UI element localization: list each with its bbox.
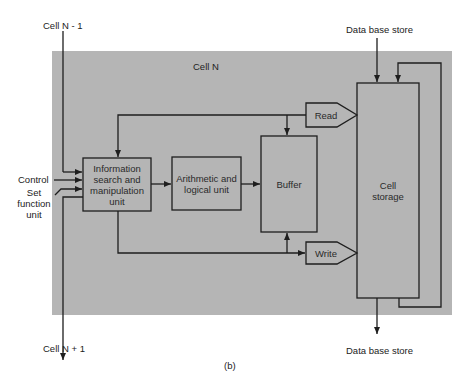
storage-line-1: Cell [380, 180, 396, 191]
alu-line-2: logical unit [184, 184, 229, 195]
storage-line-2: storage [372, 191, 404, 202]
read-text: Read [306, 103, 346, 127]
info-line-3: manipulation [90, 185, 144, 196]
control-label: Control [18, 174, 49, 185]
info-line-2: search and [93, 174, 140, 185]
info-unit-text: Information search and manipulation unit [83, 158, 151, 211]
cell-next-label: Cell N + 1 [43, 343, 85, 354]
info-line-4: unit [109, 196, 124, 207]
set-function-unit-label: Set function unit [17, 187, 51, 220]
database-top-label: Data base store [346, 24, 413, 35]
unit-label-line: unit [17, 209, 51, 220]
function-label-line: function [17, 198, 51, 209]
alu-line-1: Arithmetic and [176, 173, 237, 184]
storage-text: Cell storage [357, 83, 419, 298]
write-text: Write [306, 242, 346, 264]
database-bottom-label: Data base store [346, 345, 413, 356]
info-line-1: Information [93, 163, 141, 174]
cell-n-label: Cell N [193, 61, 219, 72]
set-label-line: Set [17, 187, 51, 198]
cell-prev-label: Cell N - 1 [43, 20, 83, 31]
figure-caption: (b) [224, 360, 236, 371]
alu-text: Arithmetic and logical unit [172, 157, 241, 210]
buffer-text: Buffer [261, 136, 317, 232]
